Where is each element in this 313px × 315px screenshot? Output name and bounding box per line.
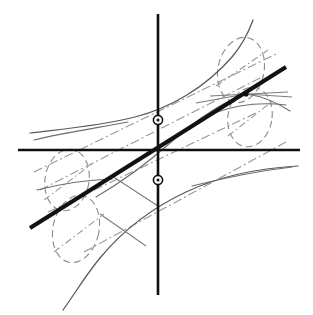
curve-group [30, 20, 298, 310]
ray-lower-outer [84, 142, 286, 252]
figure-canvas: Hand-drawn projective geometry diagram C… [0, 0, 313, 315]
ray-upper-outer [34, 54, 276, 172]
lower-axis-point [153, 175, 162, 184]
lower-axis-point-core [157, 179, 160, 182]
diagram-svg [0, 0, 313, 315]
upper-axis-point [153, 115, 162, 124]
upper-axis-point-core [157, 119, 160, 122]
crossing-left-lower [100, 214, 146, 246]
ray-ellipse-axis-right-upper [216, 50, 268, 86]
axis-group [18, 14, 300, 295]
tangency-node [243, 91, 248, 96]
upper-branch-curve [30, 20, 253, 133]
lower-left-ellipse [46, 191, 105, 267]
crossing-left-upper [112, 176, 158, 206]
ray-ellipse-axis-right-lower [228, 100, 274, 136]
ray-ellipse-axis-left-lower [54, 214, 104, 252]
